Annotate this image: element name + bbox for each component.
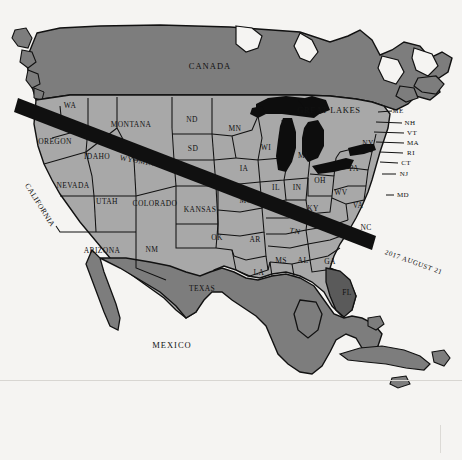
scan-edge-artifact: [440, 425, 441, 453]
north-america-map: [0, 0, 462, 460]
eclipse-map-page: CANADA MEXICO GREAT LAKES WA OREGON CALI…: [0, 0, 462, 460]
page-fold-line: [0, 380, 462, 381]
